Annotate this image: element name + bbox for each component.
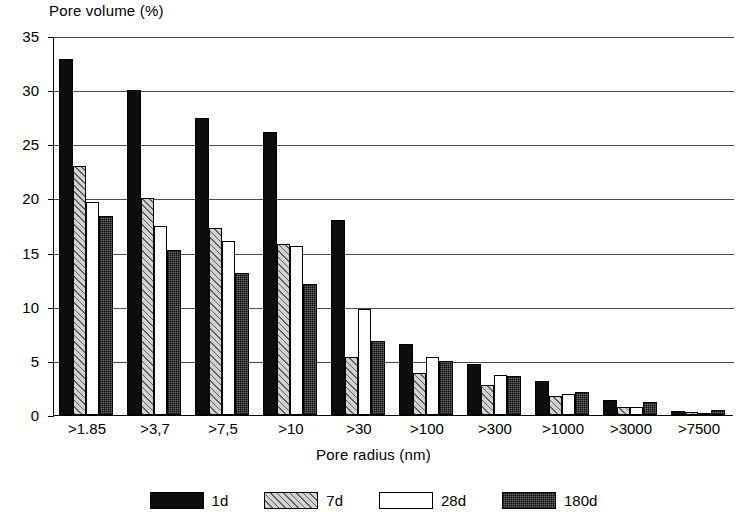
bar-180d->7,5 (235, 273, 248, 415)
bar-1d->300 (467, 364, 480, 415)
legend-item-7d: 7d (264, 492, 343, 509)
bar-1d->100 (399, 344, 412, 415)
y-axis-title: Pore volume (%) (49, 2, 164, 19)
bar-7d->3,7 (141, 198, 154, 415)
legend-swatch-7d (264, 492, 318, 509)
x-axis-tick-label: >7500 (659, 420, 739, 437)
bar-180d->300 (507, 376, 520, 415)
bar-7d->100 (413, 373, 426, 415)
chart-legend: 1d7d28d180d (0, 492, 747, 509)
bar-group (122, 36, 190, 415)
legend-item-180d: 180d (502, 492, 597, 509)
bar-7d->7500 (685, 412, 698, 415)
bar-7d->10 (277, 244, 290, 415)
bar-28d->300 (494, 375, 507, 415)
bar-group (394, 36, 462, 415)
bar-group (666, 36, 734, 415)
bar-1d->30 (331, 220, 344, 415)
bar-180d->7500 (711, 410, 724, 415)
bar-1d->3,7 (127, 90, 140, 415)
legend-label-1d: 1d (212, 493, 229, 508)
bar-180d->10 (303, 284, 316, 415)
y-axis-tick-label: 0 (5, 408, 39, 423)
bar-1d->10 (263, 132, 276, 415)
bar-group (54, 36, 122, 415)
legend-label-7d: 7d (326, 493, 343, 508)
legend-swatch-28d (379, 492, 433, 509)
bar-28d->1000 (562, 394, 575, 415)
bar-180d->1.85 (99, 216, 112, 415)
y-axis-tick-label: 25 (5, 137, 39, 152)
bar-7d->3000 (617, 407, 630, 415)
y-axis-tick-label: 10 (5, 300, 39, 315)
bar-28d->10 (290, 246, 303, 415)
bar-180d->3000 (643, 402, 656, 415)
bar-1d->1000 (535, 381, 548, 415)
legend-label-180d: 180d (564, 493, 597, 508)
y-axis-tick-label: 30 (5, 83, 39, 98)
bar-group (530, 36, 598, 415)
bar-1d->7500 (671, 411, 684, 415)
bar-180d->1000 (575, 392, 588, 415)
bar-7d->1000 (549, 396, 562, 415)
pore-volume-bar-chart: Pore volume (%) 35302520151050 >1.85>3,7… (0, 0, 747, 529)
bar-180d->100 (439, 361, 452, 415)
bar-28d->7500 (698, 413, 711, 415)
x-axis-title: Pore radius (nm) (0, 446, 747, 463)
y-axis-tick-label: 15 (5, 246, 39, 261)
bar-7d->1.85 (73, 166, 86, 415)
legend-label-28d: 28d (441, 493, 466, 508)
legend-item-1d: 1d (150, 492, 229, 509)
bar-1d->1.85 (59, 59, 72, 415)
y-axis-tick (48, 416, 54, 417)
legend-swatch-1d (150, 492, 204, 509)
bar-group (190, 36, 258, 415)
y-axis-tick-label: 35 (5, 29, 39, 44)
bar-1d->3000 (603, 400, 616, 415)
bar-28d->100 (426, 357, 439, 415)
bar-180d->3,7 (167, 250, 180, 415)
bar-180d->30 (371, 341, 384, 415)
legend-swatch-180d (502, 492, 556, 509)
bar-7d->30 (345, 357, 358, 415)
y-axis-tick-label: 20 (5, 191, 39, 206)
y-axis-tick-label: 5 (5, 354, 39, 369)
legend-item-28d: 28d (379, 492, 466, 509)
plot-area (53, 37, 733, 416)
bar-28d->3,7 (154, 226, 167, 416)
bar-28d->3000 (630, 407, 643, 415)
bar-7d->7,5 (209, 228, 222, 415)
bar-group (462, 36, 530, 415)
bar-group (326, 36, 394, 415)
bar-7d->300 (481, 385, 494, 415)
bar-28d->7,5 (222, 241, 235, 415)
bar-28d->1.85 (86, 202, 99, 415)
bar-group (258, 36, 326, 415)
bar-28d->30 (358, 309, 371, 415)
bar-group (598, 36, 666, 415)
bar-1d->7,5 (195, 118, 208, 415)
